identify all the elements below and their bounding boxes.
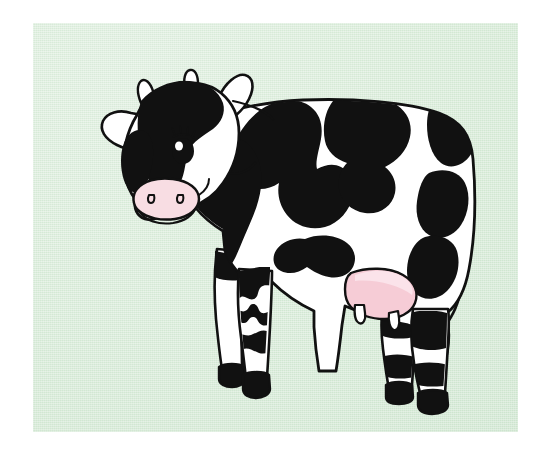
eye-highlight <box>175 141 183 150</box>
hoof-front-far <box>219 364 245 387</box>
illustration-root: Illustration of a black and white Holste… <box>0 0 542 453</box>
green-background-panel <box>33 23 518 432</box>
nostril-right <box>177 195 183 203</box>
cow-illustration <box>33 23 518 432</box>
hoof-front-near <box>243 372 270 398</box>
hind-leg-near-patch <box>407 311 453 351</box>
nostril-left <box>148 195 154 203</box>
teat-2 <box>389 311 400 330</box>
hoof-hind-near <box>418 390 448 414</box>
hoof-hind-far <box>386 382 413 404</box>
teat-1 <box>355 305 366 323</box>
muzzle <box>133 178 199 223</box>
